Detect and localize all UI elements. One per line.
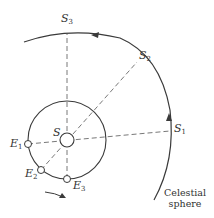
sightline-e1-s1 — [28, 131, 170, 144]
caption-line-1: Celestial — [160, 187, 210, 198]
diagram-svg — [0, 0, 214, 218]
celestial-sphere-caption: Celestial sphere — [160, 187, 210, 209]
sightline-e2-s2 — [41, 62, 137, 170]
diagram-canvas: S3 S2 S1 S E1 E2 E3 Celestial sphere — [0, 0, 214, 218]
sun — [60, 133, 74, 147]
label-e2: E2 — [25, 168, 38, 181]
label-s2: S2 — [139, 50, 151, 63]
caption-line-2: sphere — [160, 198, 210, 209]
label-sun: S — [53, 127, 61, 138]
label-e1: E1 — [10, 138, 23, 151]
earth-position-3 — [64, 176, 71, 183]
label-s1: S1 — [174, 123, 186, 136]
earth-position-1 — [25, 141, 32, 148]
earth-position-2 — [38, 167, 45, 174]
label-s3: S3 — [61, 13, 73, 26]
label-e3: E3 — [73, 180, 86, 193]
